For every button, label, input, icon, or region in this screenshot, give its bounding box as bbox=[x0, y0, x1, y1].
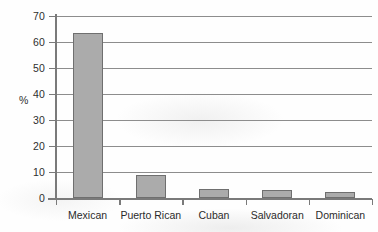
gridline bbox=[56, 146, 372, 147]
gridline bbox=[56, 94, 372, 95]
bar bbox=[136, 175, 166, 198]
y-axis-title: % bbox=[19, 95, 28, 106]
x-axis-category-label: Mexican bbox=[52, 209, 123, 221]
y-axis-tick-mark bbox=[49, 172, 56, 173]
y-axis-tick-mark bbox=[49, 16, 56, 17]
gridline bbox=[56, 42, 372, 43]
y-axis-tick-label: 20 bbox=[25, 141, 45, 152]
y-axis-tick-label: 0 bbox=[25, 193, 45, 204]
gridline bbox=[56, 16, 372, 17]
x-axis-category-label: Cuban bbox=[178, 209, 249, 221]
y-axis-tick-mark bbox=[49, 198, 56, 199]
x-axis-tick-mark bbox=[182, 199, 183, 205]
y-axis-tick-mark bbox=[49, 120, 56, 121]
x-axis-category-label: Dominican bbox=[305, 209, 376, 221]
y-axis-tick-mark bbox=[49, 42, 56, 43]
x-axis-tick-mark bbox=[246, 199, 247, 205]
y-axis-tick-mark bbox=[49, 94, 56, 95]
y-axis-tick-label: 70 bbox=[25, 11, 45, 22]
x-axis-tick-mark bbox=[56, 199, 57, 205]
y-axis-tick-mark bbox=[49, 68, 56, 69]
y-axis-tick-label: 30 bbox=[25, 115, 45, 126]
x-axis-category-label: Salvadoran bbox=[242, 209, 313, 221]
bar bbox=[262, 190, 292, 198]
x-axis-category-label: Puerto Rican bbox=[115, 209, 186, 221]
y-axis-tick-label: 10 bbox=[25, 167, 45, 178]
gridline bbox=[56, 172, 372, 173]
x-axis-tick-mark bbox=[119, 199, 120, 205]
x-axis-tick-mark bbox=[309, 199, 310, 205]
gridline bbox=[56, 120, 372, 121]
bar-chart-figure: 010203040506070 % MexicanPuerto RicanCub… bbox=[0, 0, 378, 232]
bar bbox=[199, 189, 229, 198]
x-axis-line bbox=[48, 198, 372, 200]
y-axis-tick-label: 60 bbox=[25, 37, 45, 48]
plot-area bbox=[56, 16, 372, 198]
bar bbox=[73, 33, 103, 198]
bar bbox=[325, 192, 355, 199]
y-axis-tick-mark bbox=[49, 146, 56, 147]
y-axis-tick-labels: 010203040506070 bbox=[20, 0, 45, 232]
gridline bbox=[56, 68, 372, 69]
y-axis-tick-label: 50 bbox=[25, 63, 45, 74]
x-axis-tick-mark bbox=[372, 199, 373, 205]
